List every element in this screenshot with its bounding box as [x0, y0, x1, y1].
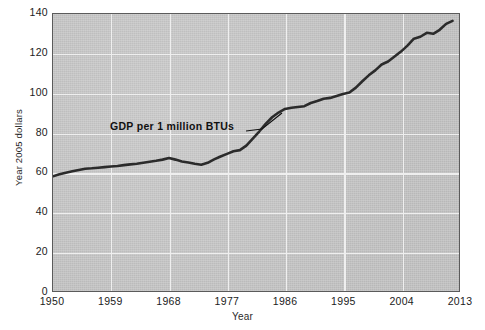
annotation-leader-line — [246, 113, 286, 141]
y-axis-tick-label: 100 — [18, 86, 48, 98]
x-axis-tick-label: 1995 — [320, 295, 366, 307]
x-axis-tick-label: 1968 — [146, 295, 192, 307]
y-axis-tick-label: 60 — [18, 165, 48, 177]
annotation-label-gdp-per-million-btus: GDP per 1 million BTUs — [110, 120, 234, 132]
x-axis-tick-label: 1977 — [204, 295, 250, 307]
data-series-svg — [53, 14, 459, 291]
series-line-gdp-per-million-btus — [53, 21, 453, 176]
y-axis-tick-label: 140 — [18, 6, 48, 18]
y-axis-tick-labels: 020406080100120140 — [16, 0, 48, 330]
x-axis-tick-labels: 19501959196819771986199520042013 — [0, 295, 485, 311]
x-axis-title: Year — [0, 311, 485, 322]
x-axis-tick-label: 2004 — [379, 295, 425, 307]
y-axis-tick-label: 20 — [18, 245, 48, 257]
x-axis-tick-label: 2013 — [437, 295, 483, 307]
y-axis-tick-label: 40 — [18, 205, 48, 217]
plot-area — [52, 13, 460, 292]
y-axis-tick-label: 80 — [18, 126, 48, 138]
x-axis-tick-label: 1959 — [87, 295, 133, 307]
y-axis-tick-label: 120 — [18, 46, 48, 58]
x-axis-tick-label: 1986 — [262, 295, 308, 307]
figure-container: Year 2005 dollars 020406080100120140 GDP… — [0, 0, 485, 330]
x-axis-tick-label: 1950 — [29, 295, 75, 307]
